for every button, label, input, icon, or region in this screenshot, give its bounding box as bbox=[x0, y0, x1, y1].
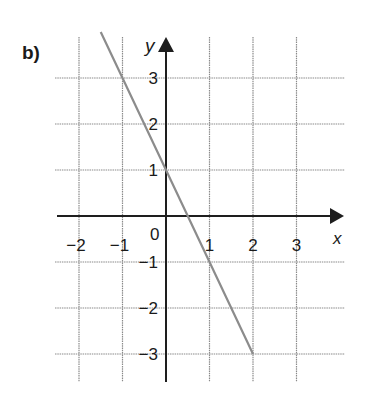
y-tick-label: 3 bbox=[149, 69, 158, 88]
coordinate-graph: xy−2−10123−3−2−1123 bbox=[0, 0, 365, 402]
x-axis-arrow-icon bbox=[330, 208, 344, 224]
y-tick-label: −2 bbox=[139, 299, 158, 318]
x-tick-label: 2 bbox=[248, 236, 257, 255]
tick-labels: xy−2−10123−3−2−1123 bbox=[66, 35, 342, 364]
y-axis-label: y bbox=[143, 35, 156, 56]
y-tick-label: 1 bbox=[149, 161, 158, 180]
y-tick-label: −3 bbox=[139, 345, 158, 364]
x-tick-label: −2 bbox=[66, 236, 85, 255]
x-axis-label: x bbox=[332, 229, 342, 248]
y-tick-label: 2 bbox=[149, 115, 158, 134]
x-tick-label: 1 bbox=[205, 236, 214, 255]
x-tick-label: −1 bbox=[110, 236, 129, 255]
axes bbox=[57, 37, 344, 382]
origin-label: 0 bbox=[150, 225, 159, 244]
data-line bbox=[101, 32, 253, 354]
y-axis-arrow-icon bbox=[158, 37, 174, 52]
grid-lines bbox=[55, 37, 345, 382]
plot-line bbox=[101, 32, 253, 354]
x-tick-label: 3 bbox=[292, 236, 301, 255]
y-tick-label: −1 bbox=[139, 253, 158, 272]
